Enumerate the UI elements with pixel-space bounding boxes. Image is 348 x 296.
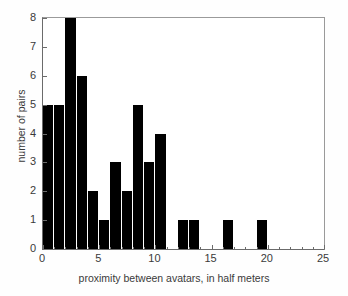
y-axis-tick (43, 76, 47, 77)
x-axis-minor-tick (279, 247, 280, 249)
x-axis-minor-tick (65, 247, 66, 249)
x-axis-tick (155, 245, 156, 249)
histogram-bar (43, 105, 53, 249)
y-axis-tick (43, 220, 47, 221)
y-axis-tick (43, 105, 47, 106)
histogram-bar (54, 105, 64, 249)
x-axis-minor-tick (200, 247, 201, 249)
x-axis-tick (43, 245, 44, 249)
y-axis-title: number of pairs (15, 61, 27, 191)
x-axis-tick-label: 20 (255, 253, 279, 264)
x-axis-minor-tick (144, 247, 145, 249)
x-axis-tick (99, 245, 100, 249)
y-axis-tick (43, 134, 47, 135)
y-axis-tick (43, 47, 47, 48)
x-axis-minor-tick (178, 247, 179, 249)
histogram-bar (178, 220, 188, 249)
x-axis-minor-tick (189, 247, 190, 249)
x-axis-minor-tick (167, 247, 168, 249)
histogram-bar (99, 220, 109, 249)
histogram-bar (223, 220, 233, 249)
y-axis-tick-label: 1 (10, 214, 36, 225)
histogram-bar (77, 76, 87, 249)
x-axis-minor-tick (77, 247, 78, 249)
histogram-bar (122, 191, 132, 249)
x-axis-minor-tick (223, 247, 224, 249)
x-axis-tick-label: 10 (142, 253, 166, 264)
histogram-figure: 012345678 0510152025 proximity between a… (0, 0, 348, 296)
y-axis-tick (43, 18, 47, 19)
x-axis-minor-tick (290, 247, 291, 249)
y-axis-tick (43, 191, 47, 192)
x-axis-minor-tick (133, 247, 134, 249)
x-axis-title: proximity between avatars, in half meter… (0, 272, 348, 284)
histogram-bar (144, 162, 154, 249)
x-axis-tick (212, 245, 213, 249)
y-axis-tick (43, 162, 47, 163)
histogram-bar (65, 18, 75, 249)
x-axis-minor-tick (257, 247, 258, 249)
x-axis-tick-label: 5 (86, 253, 110, 264)
x-axis-minor-tick (245, 247, 246, 249)
plot-area (42, 17, 325, 250)
x-axis-tick (268, 245, 269, 249)
x-axis-minor-tick (54, 247, 55, 249)
y-axis-tick (43, 249, 47, 250)
y-axis-tick-label: 7 (10, 41, 36, 52)
histogram-bar (189, 220, 199, 249)
x-axis-minor-tick (234, 247, 235, 249)
y-axis-tick-label: 8 (10, 12, 36, 23)
histogram-bar (155, 134, 165, 250)
histogram-bar (257, 220, 267, 249)
histogram-bar (133, 105, 143, 249)
x-axis-tick-label: 15 (199, 253, 223, 264)
x-axis-minor-tick (313, 247, 314, 249)
x-axis-tick-label: 0 (30, 253, 54, 264)
x-axis-minor-tick (122, 247, 123, 249)
histogram-bar (88, 191, 98, 249)
x-axis-minor-tick (88, 247, 89, 249)
x-axis-minor-tick (302, 247, 303, 249)
bar-series (43, 18, 324, 249)
x-axis-tick (324, 245, 325, 249)
histogram-bar (110, 162, 120, 249)
x-axis-minor-tick (110, 247, 111, 249)
x-axis-tick-label: 25 (311, 253, 335, 264)
